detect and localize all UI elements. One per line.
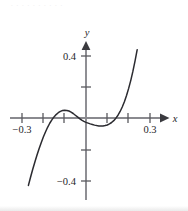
y-axis-arrow-icon — [82, 41, 91, 50]
y-axis-label: y — [84, 27, 90, 38]
graph-plot: −0.3 0.3 0.4 −0.4 x y — [0, 0, 188, 211]
page-edge-shadow — [0, 206, 188, 211]
x-axis-arrow-icon — [160, 114, 170, 123]
axes-group — [10, 41, 170, 200]
x-axis-label: x — [172, 113, 178, 124]
x-tick-label-0.3: 0.3 — [143, 124, 156, 135]
x-tick-label--0.3: −0.3 — [12, 124, 31, 135]
figure-container: . . . . . . . . . . — [0, 0, 188, 211]
y-tick-label--0.4: −0.4 — [57, 176, 77, 187]
y-tick-label-0.4: 0.4 — [63, 51, 77, 62]
